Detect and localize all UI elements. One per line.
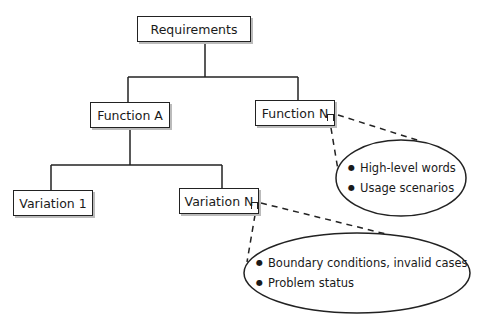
annotation-item: Boundary conditions, invalid cases [256,253,468,273]
annotation-variation-n: Boundary conditions, invalid cases Probl… [256,253,468,293]
node-function-a: Function A [90,102,170,128]
node-requirements: Requirements [137,16,251,42]
node-label: Requirements [151,22,238,37]
annotation-anchor-icon [251,202,258,209]
node-label: Variation N [185,194,254,209]
node-variation-1: Variation 1 [13,190,93,216]
annotation-item: Usage scenarios [348,178,456,198]
annotation-anchor-icon [327,114,334,121]
node-variation-n: Variation N [179,188,259,214]
annotation-item: Problem status [256,273,468,293]
node-label: Function N [262,106,329,121]
annotation-item: High-level words [348,158,456,178]
node-label: Variation 1 [19,196,86,211]
node-function-n: Function N [255,100,335,126]
node-label: Function A [97,108,163,123]
annotation-function-n: High-level words Usage scenarios [348,158,456,198]
